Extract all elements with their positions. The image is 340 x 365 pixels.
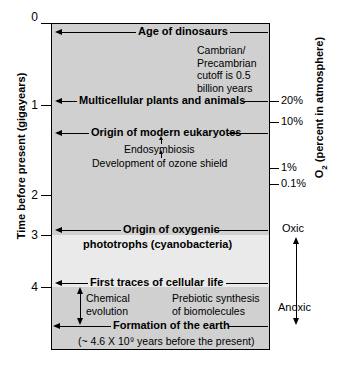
eukaryotes-label: Origin of modern eukaryotes xyxy=(87,127,245,138)
chemical-evolution-line-1: Chemical xyxy=(86,292,130,305)
y-tick-label-2: 2 xyxy=(22,189,38,201)
earth-timeline-figure: Time before present (gigayears) 0 1 2 3 … xyxy=(0,0,340,365)
o2-tick-20 xyxy=(270,101,279,102)
y-tick-1 xyxy=(41,105,51,106)
o2-label-01: 0.1% xyxy=(281,178,306,189)
formation-label: Formation of the earth xyxy=(109,320,234,331)
y-tick-label-1: 1 xyxy=(22,99,38,111)
cellular-life-line-left xyxy=(61,283,88,284)
anoxic-arrowhead-icon xyxy=(293,318,299,325)
redox-axis-line xyxy=(296,242,297,318)
ozone-label: Development of ozone shield xyxy=(92,158,227,169)
cambrian-note-line-2: Precambrian xyxy=(197,57,257,70)
multicellular-line-right xyxy=(242,101,268,102)
y-tick-4 xyxy=(41,287,51,288)
chemical-evolution-arrow-down-icon xyxy=(77,318,83,325)
chemical-evolution-note: Chemical evolution xyxy=(86,292,130,317)
chemical-evolution-line-2: evolution xyxy=(86,305,130,318)
cambrian-note-line-1: Cambrian/ xyxy=(197,44,257,57)
o2-axis-title: O2 (percent in atmosphere) xyxy=(313,18,328,198)
prebiotic-synthesis-line-1: Prebiotic synthesis xyxy=(172,292,260,305)
dinosaurs-line-left xyxy=(61,32,136,33)
endosymbiosis-tick-icon xyxy=(159,136,163,140)
o2-label-20: 20% xyxy=(281,95,303,106)
prebiotic-synthesis-line-2: of biomolecules xyxy=(172,305,260,318)
prebiotic-synthesis-note: Prebiotic synthesis of biomolecules xyxy=(172,292,260,317)
o2-label-1: 1% xyxy=(281,162,297,173)
chemical-evolution-line xyxy=(80,292,81,318)
cambrian-note-line-4: billion years xyxy=(197,82,257,95)
y-tick-3 xyxy=(41,235,51,236)
y-tick-label-3: 3 xyxy=(22,229,38,241)
cambrian-note: Cambrian/ Precambrian cutoff is 0.5 bill… xyxy=(197,44,257,94)
dinosaurs-line-right xyxy=(230,32,268,33)
cellular-life-line-right xyxy=(226,283,268,284)
cellular-life-label: First traces of cellular life xyxy=(86,277,227,288)
anoxic-label: Anoxic xyxy=(278,302,311,313)
multicellular-label: Multicellular plants and animals xyxy=(75,95,249,106)
o2-tick-1 xyxy=(270,168,279,169)
ozone-tick-icon xyxy=(159,150,163,154)
eukaryotes-line-right xyxy=(228,133,268,134)
y-tick-2 xyxy=(41,195,51,196)
phototrophs-label-line-2: phototrophs (cyanobacteria) xyxy=(83,239,232,250)
dinosaurs-label: Age of dinosaurs xyxy=(134,26,232,37)
phototrophs-line-right xyxy=(215,230,268,231)
y-tick-0 xyxy=(41,23,51,24)
formation-line-left xyxy=(59,326,111,327)
o2-axis-title-text: O2 (percent in atmosphere) xyxy=(313,37,325,178)
formation-note: (~ 4.6 X 10⁹ years before the present) xyxy=(78,336,254,347)
o2-label-10: 10% xyxy=(281,116,303,127)
phototrophs-line-left xyxy=(61,230,121,231)
formation-line-right xyxy=(228,326,268,327)
oxic-label: Oxic xyxy=(282,223,304,234)
eukaryotes-line-left xyxy=(61,133,89,134)
y-tick-label-0: 0 xyxy=(22,11,38,23)
phototrophs-label-line-1: Origin of oxygenic xyxy=(119,224,224,235)
y-tick-label-4: 4 xyxy=(22,281,38,293)
o2-tick-10 xyxy=(270,122,279,123)
o2-tick-01 xyxy=(270,184,279,185)
cambrian-note-line-3: cutoff is 0.5 xyxy=(197,69,257,82)
